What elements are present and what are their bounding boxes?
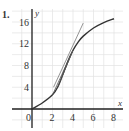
y-axis-label: y <box>34 8 39 18</box>
x-tick-label: 2 <box>50 112 55 123</box>
tick-labels: 02468481216 <box>19 17 116 124</box>
x-axis-label: x <box>117 98 122 108</box>
y-tick-label: 16 <box>19 17 29 28</box>
problem-number: 1. <box>2 9 10 20</box>
x-tick-label: 8 <box>111 112 116 123</box>
x-tick-label: 0 <box>26 112 31 123</box>
chart-figure: 1. yx 02468481216 <box>0 0 129 131</box>
secant-line <box>63 50 73 74</box>
x-tick-label: 6 <box>91 112 96 123</box>
y-tick-label: 12 <box>19 38 29 49</box>
y-tick-label: 4 <box>24 82 29 93</box>
x-tick-label: 4 <box>70 112 75 123</box>
y-tick-label: 8 <box>24 60 29 71</box>
